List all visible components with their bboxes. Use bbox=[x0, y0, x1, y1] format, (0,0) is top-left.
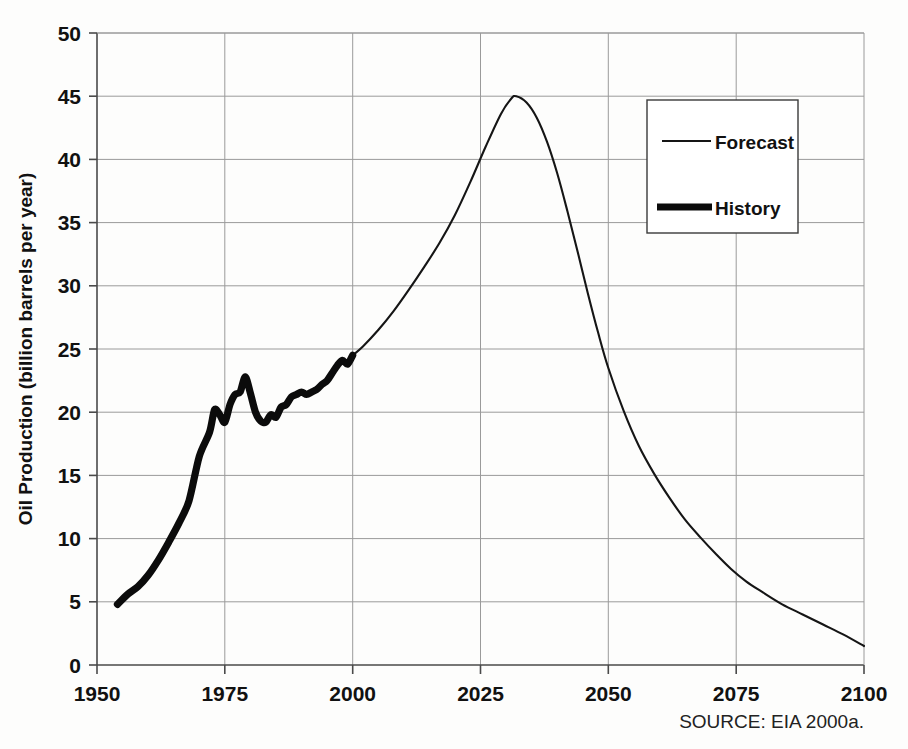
y-tick-label: 35 bbox=[58, 211, 82, 234]
y-tick-label: 10 bbox=[58, 527, 81, 550]
x-tick-label: 1975 bbox=[201, 682, 248, 705]
y-tick-label: 25 bbox=[58, 338, 82, 361]
y-tick-label: 0 bbox=[69, 654, 81, 677]
oil-production-chart: 50 45 40 35 30 25 20 15 10 5 0 1950 1975… bbox=[0, 0, 908, 749]
source-note: SOURCE: EIA 2000a. bbox=[679, 711, 864, 732]
y-tick-label: 45 bbox=[58, 85, 82, 108]
x-tick-label: 2050 bbox=[585, 682, 632, 705]
x-tick-label: 2075 bbox=[713, 682, 760, 705]
chart-legend[interactable]: Forecast History bbox=[647, 100, 798, 233]
x-tick-label: 1950 bbox=[74, 682, 121, 705]
y-tick-label: 15 bbox=[58, 464, 82, 487]
y-tick-label: 5 bbox=[69, 590, 81, 613]
y-tick-label: 30 bbox=[58, 274, 81, 297]
y-tick-label: 40 bbox=[58, 148, 81, 171]
legend-label-forecast: Forecast bbox=[715, 132, 795, 153]
x-tick-label: 2025 bbox=[457, 682, 504, 705]
y-tick-label: 20 bbox=[58, 401, 81, 424]
x-tick-label: 2000 bbox=[329, 682, 376, 705]
y-tick-label: 50 bbox=[58, 22, 81, 45]
y-axis-title: Oil Production (billion barrels per year… bbox=[15, 173, 36, 526]
legend-label-history: History bbox=[715, 198, 781, 219]
chart-figure: 50 45 40 35 30 25 20 15 10 5 0 1950 1975… bbox=[0, 0, 908, 749]
x-tick-label: 2100 bbox=[841, 682, 888, 705]
